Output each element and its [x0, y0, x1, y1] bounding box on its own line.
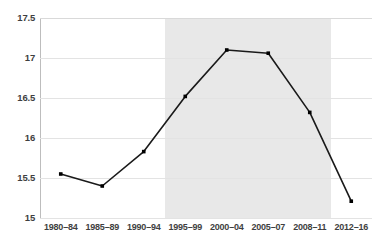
data-point-marker — [142, 150, 146, 154]
data-point-marker — [308, 111, 312, 115]
data-point-marker — [266, 51, 270, 55]
x-axis-tick-label: 2005–07 — [251, 222, 285, 232]
data-point-marker — [100, 184, 104, 188]
y-axis-tick-label: 15 — [0, 212, 35, 223]
y-axis-tick-label: 16 — [0, 132, 35, 143]
x-axis-tick-label: 2000–04 — [210, 222, 244, 232]
gridline — [40, 218, 372, 219]
plot-area — [40, 18, 372, 218]
x-axis-tick-label: 1995–99 — [168, 222, 202, 232]
data-point-marker — [59, 172, 63, 176]
data-series — [40, 18, 372, 218]
x-axis-tick-label: 1990–94 — [127, 222, 161, 232]
data-point-marker — [183, 95, 187, 99]
x-axis-tick-label: 1985–89 — [85, 222, 119, 232]
y-axis-tick-label: 17 — [0, 52, 35, 63]
data-point-marker — [349, 199, 353, 203]
x-axis-tick-label: 2012–16 — [334, 222, 368, 232]
y-axis-tick-label: 15.5 — [0, 172, 35, 183]
x-axis-tick-label: 2008–11 — [293, 222, 326, 232]
data-point-marker — [225, 48, 229, 52]
y-axis-tick-label: 16.5 — [0, 92, 35, 103]
x-axis-tick-label: 1980–84 — [44, 222, 78, 232]
line-chart: 1515.51616.51717.5 1980–841985–891990–94… — [0, 0, 379, 249]
y-axis-tick-label: 17.5 — [0, 12, 35, 23]
series-line — [61, 50, 352, 201]
